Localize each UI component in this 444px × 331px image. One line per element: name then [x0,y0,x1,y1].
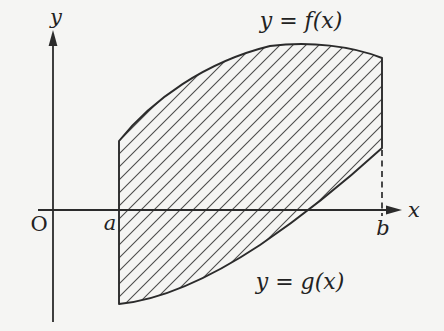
figure-canvas: y x O a b y = f(x) y = g(x) [0,0,444,331]
y-axis-label: y [49,5,63,29]
point-a-label: a [104,211,117,235]
lower-curve-equation-label: y = g(x) [255,269,345,294]
math-figure-area-between-curves: y x O a b y = f(x) y = g(x) [0,0,444,331]
x-axis-label: x [408,198,420,222]
origin-label: O [30,212,47,236]
point-b-label: b [376,216,389,240]
upper-curve-equation-label: y = f(x) [259,8,343,33]
